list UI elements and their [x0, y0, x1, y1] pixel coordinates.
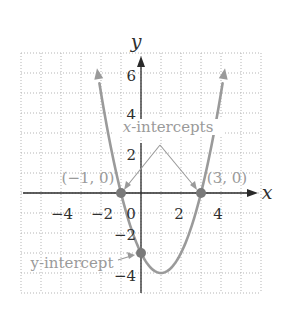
y-tick-label: −4: [114, 267, 136, 285]
x-intercepts-label: x-intercepts: [123, 118, 214, 136]
y-tick-label: 6: [126, 67, 136, 85]
point-label-neg1-0: (−1, 0): [62, 169, 115, 187]
x-axis-label: x: [262, 181, 273, 203]
parabola-chart: −4 −2 0 2 4 6 4 2 −2 −4 x y x-intercepts…: [0, 0, 290, 314]
curve-arrow-right-icon: [219, 68, 228, 80]
y-intercept-label: y-intercept: [30, 254, 114, 272]
y-axis-arrow-icon: [137, 56, 145, 67]
x-tick-label: 2: [174, 205, 184, 223]
x-axis-arrow-icon: [247, 189, 258, 197]
y-tick-label: −2: [114, 226, 136, 244]
x-tick-label: 4: [213, 205, 223, 223]
parabola-curve: [99, 83, 222, 273]
x-tick-label: −4: [51, 205, 73, 223]
y-axis-label: y: [130, 30, 142, 52]
x-tick-label: 0: [126, 205, 136, 223]
x-tick-label: −2: [91, 205, 113, 223]
intercept-point: [136, 248, 146, 258]
curve-arrow-left-icon: [94, 68, 103, 80]
intercept-point: [116, 188, 126, 198]
point-label-3-0: (3, 0): [207, 169, 247, 187]
intercept-point: [196, 188, 206, 198]
y-tick-label: 2: [126, 146, 136, 164]
